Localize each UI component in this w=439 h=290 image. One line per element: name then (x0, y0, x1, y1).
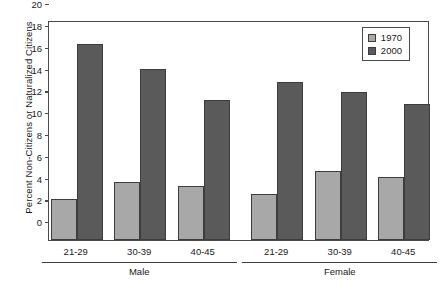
y-tick: 10 (24, 104, 49, 122)
bar-2000 (277, 82, 303, 240)
y-tick: 2 (24, 191, 49, 209)
x-tick-label: 30-39 (328, 246, 352, 257)
x-tick-label: 40-45 (191, 246, 215, 257)
x-group-female: Female (242, 262, 437, 277)
bar-1970 (51, 199, 77, 240)
legend-label-1970: 1970 (381, 33, 402, 43)
bar-group (315, 22, 367, 240)
x-tick-label: 40-45 (391, 246, 415, 257)
x-group-male: Male (42, 262, 237, 277)
y-tick-label: 0 (24, 217, 45, 228)
bar-1970 (315, 171, 341, 240)
bar-2000 (404, 104, 430, 240)
y-tick-label: 2 (24, 195, 45, 206)
bar-1970 (178, 186, 204, 241)
bar-group (251, 22, 303, 240)
y-tick: 14 (24, 60, 49, 78)
group-label: Male (42, 266, 237, 277)
legend-swatch-2000 (368, 47, 376, 55)
group-label: Female (242, 266, 437, 277)
x-axis-tick-labels: 21-2930-3940-4521-2930-3940-45 (48, 246, 429, 260)
plot-area: 02468101214161820 1970 2000 (48, 21, 429, 241)
y-tick-label: 10 (24, 108, 45, 119)
legend-item: 2000 (368, 44, 402, 57)
y-tick-label: 12 (24, 86, 45, 97)
y-tick: 6 (24, 148, 49, 166)
bar-chart-figure: Percent Non-Citizens or Naturalized Citi… (0, 0, 439, 290)
bar-2000 (77, 44, 103, 240)
bar-2000 (204, 100, 230, 240)
y-tick-label: 18 (24, 21, 45, 32)
bar-2000 (140, 69, 166, 240)
bar-group (178, 22, 230, 240)
legend-item: 1970 (368, 31, 402, 44)
group-bracket-line (42, 262, 237, 263)
y-tick-label: 16 (24, 43, 45, 54)
bar-2000 (341, 92, 367, 240)
bar-group (51, 22, 103, 240)
x-axis-group-brackets: MaleFemale (48, 262, 429, 288)
legend: 1970 2000 (362, 27, 410, 61)
y-tick-label: 6 (24, 152, 45, 163)
bar-1970 (378, 177, 404, 240)
x-tick-label: 21-29 (64, 246, 88, 257)
y-tick: 4 (24, 169, 49, 187)
x-tick-label: 21-29 (264, 246, 288, 257)
y-tick-label: 14 (24, 65, 45, 76)
bar-group (114, 22, 166, 240)
y-tick: 18 (24, 17, 49, 35)
y-tick: 12 (24, 82, 49, 100)
bar-1970 (251, 194, 277, 240)
y-tick: 20 (24, 0, 49, 13)
y-tick-label: 4 (24, 174, 45, 185)
group-bracket-line (242, 262, 437, 263)
legend-label-2000: 2000 (381, 46, 402, 56)
y-tick: 16 (24, 39, 49, 57)
y-tick-mark (45, 4, 49, 5)
x-tick-label: 30-39 (127, 246, 151, 257)
y-tick-label: 8 (24, 130, 45, 141)
y-tick-label: 20 (24, 0, 45, 10)
legend-swatch-1970 (368, 34, 376, 42)
bar-1970 (114, 182, 140, 240)
y-tick: 0 (24, 213, 49, 231)
y-tick: 8 (24, 126, 49, 144)
